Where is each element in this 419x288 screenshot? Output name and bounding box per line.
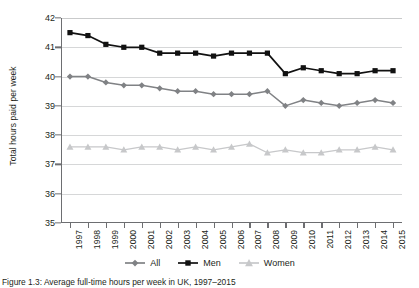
- gridline: [62, 164, 402, 165]
- x-tick-mark: [375, 223, 376, 228]
- y-tick-mark: [55, 222, 61, 223]
- x-tick-label: 1997: [74, 230, 84, 249]
- y-tick-label: 38: [33, 130, 55, 140]
- legend-label: Men: [203, 258, 221, 268]
- gridline: [62, 106, 402, 107]
- x-tick-label: 2012: [343, 230, 353, 249]
- x-tick-mark: [303, 223, 304, 228]
- chart-figure: Total hours paid per week AllMenWomen Fi…: [0, 0, 419, 288]
- x-tick-mark: [70, 223, 71, 228]
- x-tick-label: 2010: [307, 230, 317, 249]
- x-tick-mark: [178, 223, 179, 228]
- gridline: [62, 47, 402, 48]
- x-tick-mark: [142, 223, 143, 228]
- legend-label: All: [150, 258, 160, 268]
- y-tick-mark: [55, 105, 61, 106]
- plot-area: [61, 18, 402, 223]
- x-tick-label: 2011: [325, 230, 335, 248]
- figure-caption: Figure 1.3: Average full-time hours per …: [2, 277, 417, 287]
- x-tick-mark: [357, 223, 358, 228]
- x-tick-mark: [393, 223, 394, 228]
- gridline: [62, 18, 402, 19]
- x-tick-label: 1999: [110, 230, 120, 249]
- y-tick-label: 37: [33, 159, 55, 169]
- x-tick-mark: [214, 223, 215, 228]
- x-tick-mark: [285, 223, 286, 228]
- y-tick-mark: [55, 193, 61, 194]
- x-tick-mark: [267, 223, 268, 228]
- legend-item-men[interactable]: Men: [177, 258, 221, 268]
- x-tick-mark: [339, 223, 340, 228]
- x-tick-label: 2008: [271, 230, 281, 249]
- y-tick-label: 39: [33, 101, 55, 111]
- x-tick-label: 2009: [289, 230, 299, 249]
- gridline: [62, 135, 402, 136]
- gridline: [62, 77, 402, 78]
- x-tick-mark: [321, 223, 322, 228]
- y-tick-label: 41: [33, 42, 55, 52]
- x-tick-label: 2004: [200, 230, 210, 249]
- x-tick-label: 2007: [253, 230, 263, 249]
- x-tick-mark: [160, 223, 161, 228]
- x-tick-mark: [124, 223, 125, 228]
- x-tick-label: 2014: [379, 230, 389, 249]
- y-tick-mark: [55, 17, 61, 18]
- triangle-marker-icon: [238, 258, 260, 268]
- x-tick-label: 2000: [128, 230, 138, 249]
- y-tick-mark: [55, 134, 61, 135]
- x-tick-label: 1998: [92, 230, 102, 249]
- x-tick-label: 2006: [236, 230, 246, 249]
- x-tick-label: 2002: [164, 230, 174, 249]
- legend-item-women[interactable]: Women: [238, 258, 295, 268]
- x-tick-mark: [88, 223, 89, 228]
- x-tick-label: 2015: [397, 230, 407, 249]
- legend-item-all[interactable]: All: [124, 258, 160, 268]
- x-tick-label: 2003: [182, 230, 192, 249]
- y-axis-title: Total hours paid per week: [0, 0, 26, 232]
- y-tick-mark: [55, 164, 61, 165]
- x-tick-label: 2013: [361, 230, 371, 249]
- square-marker-icon: [177, 258, 199, 268]
- x-tick-mark: [106, 223, 107, 228]
- y-tick-mark: [55, 47, 61, 48]
- x-tick-label: 2001: [146, 230, 156, 249]
- x-tick-mark: [249, 223, 250, 228]
- x-tick-mark: [196, 223, 197, 228]
- gridline: [62, 194, 402, 195]
- diamond-marker-icon: [124, 258, 146, 268]
- y-axis-title-label: Total hours paid per week: [8, 66, 18, 165]
- legend-label: Women: [264, 258, 295, 268]
- x-tick-label: 2005: [218, 230, 228, 249]
- y-tick-label: 35: [33, 218, 55, 228]
- y-tick-mark: [55, 76, 61, 77]
- y-tick-label: 36: [33, 189, 55, 199]
- chart-legend: AllMenWomen: [0, 258, 419, 268]
- y-tick-label: 42: [33, 13, 55, 23]
- x-tick-mark: [232, 223, 233, 228]
- y-tick-label: 40: [33, 72, 55, 82]
